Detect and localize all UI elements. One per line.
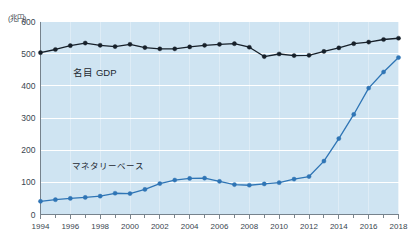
x-axis-tick-label: 1998 xyxy=(91,222,109,231)
data-point xyxy=(262,182,266,186)
data-point xyxy=(158,182,162,186)
x-axis-tick-label: 2006 xyxy=(211,222,229,231)
chart-container: (兆円) 0100200300400500600 199419961998200… xyxy=(0,0,413,242)
data-point xyxy=(277,52,281,56)
data-point xyxy=(158,47,162,51)
data-point xyxy=(292,54,296,58)
data-point xyxy=(38,51,42,55)
data-point xyxy=(53,47,57,51)
data-point xyxy=(202,176,206,180)
data-point xyxy=(337,136,341,140)
data-point xyxy=(367,40,371,44)
data-point xyxy=(38,199,42,203)
data-point xyxy=(322,49,326,53)
data-point xyxy=(83,195,87,199)
data-point xyxy=(307,53,311,57)
data-point xyxy=(188,176,192,180)
data-point xyxy=(128,42,132,46)
data-point xyxy=(173,178,177,182)
x-axis-tick-labels: 1994199619982000200220042006200820102012… xyxy=(32,222,408,231)
y-axis-tick-label: 500 xyxy=(21,49,35,59)
x-axis-tick-label: 2008 xyxy=(240,222,258,231)
data-point xyxy=(113,191,117,195)
data-point xyxy=(307,174,311,178)
data-point xyxy=(98,43,102,47)
data-point xyxy=(396,55,400,59)
data-point xyxy=(381,37,385,41)
x-axis-tick-label: 2004 xyxy=(181,222,199,231)
data-point xyxy=(247,45,251,49)
x-axis-tick-label: 2016 xyxy=(360,222,378,231)
data-point xyxy=(113,44,117,48)
data-point xyxy=(232,182,236,186)
y-axis-tick-label: 0 xyxy=(31,210,36,220)
y-axis-tick-label: 600 xyxy=(21,17,35,27)
data-point xyxy=(232,42,236,46)
data-point xyxy=(337,46,341,50)
x-axis-tick-label: 2002 xyxy=(151,222,169,231)
data-point xyxy=(277,181,281,185)
data-point xyxy=(188,45,192,49)
x-axis-tick-label: 2000 xyxy=(121,222,139,231)
y-axis-tick-label: 300 xyxy=(21,113,35,123)
x-axis-tick-label: 1994 xyxy=(32,222,50,231)
data-point xyxy=(247,183,251,187)
data-point xyxy=(217,42,221,46)
annotation-monetary-base: マネタリーベース xyxy=(72,161,144,171)
line-chart-plot: 0100200300400500600 19941996199820002002… xyxy=(0,0,413,242)
y-axis-tick-label: 100 xyxy=(21,177,35,187)
x-axis-ticks xyxy=(41,215,399,219)
data-point xyxy=(128,191,132,195)
data-point xyxy=(68,196,72,200)
x-axis-tick-label: 1996 xyxy=(61,222,79,231)
x-axis-tick-label: 2018 xyxy=(390,222,408,231)
data-point xyxy=(173,47,177,51)
data-point xyxy=(367,86,371,90)
data-point xyxy=(292,177,296,181)
data-point xyxy=(143,187,147,191)
x-axis-tick-label: 2014 xyxy=(330,222,348,231)
annotation-nominal-gdp: 名目 GDP xyxy=(73,67,116,78)
x-axis-tick-label: 2010 xyxy=(270,222,288,231)
x-axis-tick-label: 2012 xyxy=(300,222,318,231)
data-point xyxy=(381,70,385,74)
data-point xyxy=(262,54,266,58)
data-point xyxy=(83,41,87,45)
data-point xyxy=(98,194,102,198)
y-axis-tick-label: 200 xyxy=(21,145,35,155)
data-point xyxy=(217,179,221,183)
y-axis-tick-label: 400 xyxy=(21,81,35,91)
data-point xyxy=(68,44,72,48)
y-axis-tick-labels: 0100200300400500600 xyxy=(21,17,35,220)
data-point xyxy=(352,112,356,116)
data-point xyxy=(53,198,57,202)
data-point xyxy=(202,43,206,47)
data-point xyxy=(396,36,400,40)
data-point xyxy=(143,45,147,49)
data-point xyxy=(322,159,326,163)
data-point xyxy=(352,42,356,46)
